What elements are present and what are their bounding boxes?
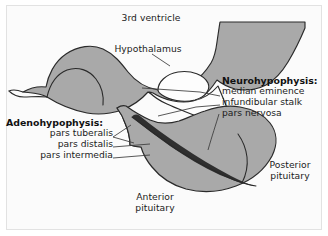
leader-hypothalamus <box>152 54 170 66</box>
label-hypothalamus: Hypothalamus <box>103 44 193 55</box>
median-eminence-cavity <box>158 72 209 102</box>
pituitary-diagram-figure: 3rd ventricle Hypothalamus Neurohypophys… <box>0 0 328 236</box>
label-posterior-pituitary: Posterior pituitary <box>259 160 321 181</box>
neurohypophysis-item-pars-nervosa: pars nervosa <box>222 108 326 119</box>
label-third-ventricle: 3rd ventricle <box>108 13 194 24</box>
adenohypophysis-item-pars-distalis: pars distalis <box>6 139 113 150</box>
neurohypophysis-item-infundibular-stalk: infundibular stalk <box>222 97 326 108</box>
neurohypophysis-label-group: Neurohypophysis: median eminence infundi… <box>222 75 326 118</box>
adenohypophysis-item-pars-intermedia: pars intermedia <box>6 150 113 161</box>
label-anterior-pituitary: Anterior pituitary <box>120 192 190 213</box>
adenohypophysis-label-group: Adenohypophysis: pars tuberalis pars dis… <box>6 117 113 160</box>
